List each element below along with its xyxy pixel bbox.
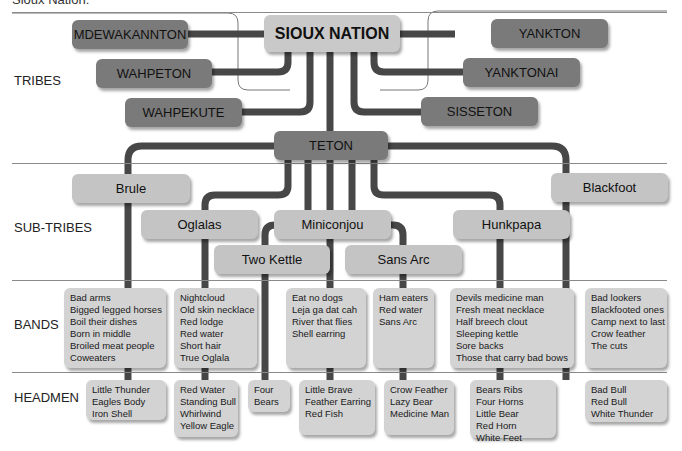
- diagram-title: Sioux Nation:: [12, 0, 89, 7]
- band-item: Broiled meat people: [70, 340, 155, 352]
- headman-item: Yellow Eagle: [180, 420, 234, 432]
- headman-item: Bears Ribs: [476, 384, 522, 396]
- band-item: Crow feather: [591, 328, 645, 340]
- headman-item: Lazy Bear: [390, 396, 433, 408]
- band-item: Bad lookers: [591, 292, 641, 304]
- node-hunkpapa: Hunkpapa: [453, 210, 570, 239]
- divider-top: [12, 12, 667, 13]
- bands-miniconjou: Eat no dogs Leja ga dat cah River that f…: [286, 288, 366, 368]
- headmen-miniconjou: Little Brave Feather Earring Red Fish: [299, 380, 375, 435]
- node-two-kettle: Two Kettle: [214, 245, 330, 274]
- band-item: Coweaters: [70, 352, 115, 364]
- band-item: Leja ga dat cah: [292, 304, 357, 316]
- band-item: Devils medicine man: [456, 292, 544, 304]
- band-item: Red lodge: [180, 316, 223, 328]
- sioux-nation-diagram: Sioux Nation: TRIBES SUB-TRIBES BANDS HE…: [0, 0, 682, 451]
- headmen-brule: Little Thunder Eagles Body Iron Shell: [86, 380, 166, 420]
- band-item: Fresh meat necklace: [456, 304, 544, 316]
- node-miniconjou: Miniconjou: [274, 210, 391, 239]
- band-item: River that flies: [292, 316, 352, 328]
- band-item: Camp next to last: [591, 316, 665, 328]
- headman-item: Eagles Body: [92, 396, 145, 408]
- node-wahpekute: WAHPEKUTE: [125, 98, 242, 127]
- headman-item: Standing Bull: [180, 396, 236, 408]
- headman-item: Medicine Man: [390, 408, 449, 420]
- band-item: Red water: [379, 304, 422, 316]
- headman-item: Whirlwind: [180, 408, 221, 420]
- band-item: Sans Arc: [379, 316, 417, 328]
- band-item: Bad arms: [70, 292, 111, 304]
- node-sisseton: SISSETON: [421, 97, 538, 126]
- band-item: Born in middle: [70, 328, 131, 340]
- node-teton: TETON: [274, 131, 388, 160]
- headman-item: Four Horns: [476, 396, 524, 408]
- band-item: True Oglala: [180, 352, 229, 364]
- headmen-blackfoot: Bad Bull Red Bull White Thunder: [585, 380, 667, 422]
- headmen-hunkpapa: Bears Ribs Four Horns Little Bear Red Ho…: [470, 380, 556, 438]
- node-mdewakannton: MDEWAKANNTON: [72, 20, 188, 49]
- row-label-headmen: HEADMEN: [14, 390, 79, 405]
- band-item: Blackfooted ones: [591, 304, 664, 316]
- node-wahpeton: WAHPETON: [96, 59, 212, 88]
- headman-item: Little Brave: [305, 384, 353, 396]
- headman-item: Red Bull: [591, 396, 627, 408]
- headmen-sans-arc: Crow Feather Lazy Bear Medicine Man: [384, 380, 454, 435]
- divider-subtribes: [12, 280, 667, 281]
- divider-bands: [12, 372, 667, 373]
- headmen-two-kettle: Four Bears: [248, 380, 290, 412]
- divider-tribes: [12, 163, 667, 164]
- node-brule: Brule: [72, 174, 190, 203]
- bands-hunkpapa: Devils medicine man Fresh meat necklace …: [450, 288, 574, 368]
- headman-item: Red Horn: [476, 420, 517, 432]
- band-item: Sleeping kettle: [456, 328, 518, 340]
- band-item: Nightcloud: [180, 292, 225, 304]
- band-item: Sore backs: [456, 340, 504, 352]
- node-sans-arc: Sans Arc: [345, 245, 462, 274]
- node-blackfoot: Blackfoot: [551, 173, 668, 202]
- headman-item: Red Water: [180, 384, 225, 396]
- headman-item: Little Bear: [476, 408, 519, 420]
- node-yankton: YANKTON: [491, 19, 608, 48]
- bands-brule: Bad arms Bigged legged horses Boil their…: [64, 288, 166, 368]
- band-item: Boil their dishes: [70, 316, 137, 328]
- headman-item: Little Thunder: [92, 384, 150, 396]
- headman-item: Feather Earring: [305, 396, 371, 408]
- band-item: Ham eaters: [379, 292, 428, 304]
- row-label-bands: BANDS: [14, 317, 59, 332]
- band-item: Short hair: [180, 340, 221, 352]
- bands-blackfoot: Bad lookers Blackfooted ones Camp next t…: [585, 288, 667, 368]
- band-item: Bigged legged horses: [70, 304, 162, 316]
- headman-item: White Feet: [476, 432, 522, 444]
- headman-item: Bears: [254, 396, 279, 408]
- bands-sans-arc: Ham eaters Red water Sans Arc: [373, 288, 434, 368]
- row-label-sub-tribes: SUB-TRIBES: [14, 220, 92, 235]
- headman-item: Iron Shell: [92, 408, 132, 420]
- row-label-tribes: TRIBES: [14, 73, 61, 88]
- band-item: Red water: [180, 328, 223, 340]
- band-item: Half breech clout: [456, 316, 527, 328]
- band-item: Eat no dogs: [292, 292, 343, 304]
- headmen-oglalas: Red Water Standing Bull Whirlwind Yellow…: [174, 380, 238, 437]
- bands-oglalas: Nightcloud Old skin necklace Red lodge R…: [174, 288, 257, 368]
- node-yanktonai: YANKTONAI: [463, 58, 580, 87]
- band-item: Those that carry bad bows: [456, 352, 568, 364]
- node-oglalas: Oglalas: [141, 210, 258, 239]
- band-item: The cuts: [591, 340, 627, 352]
- headman-item: Bad Bull: [591, 384, 626, 396]
- node-sioux-nation: SIOUX NATION: [264, 15, 400, 52]
- headman-item: Four: [254, 384, 274, 396]
- band-item: Shell earring: [292, 328, 345, 340]
- headman-item: Crow Feather: [390, 384, 448, 396]
- headman-item: White Thunder: [591, 408, 653, 420]
- band-item: Old skin necklace: [180, 304, 254, 316]
- headman-item: Red Fish: [305, 408, 343, 420]
